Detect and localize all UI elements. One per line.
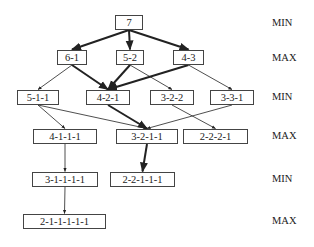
node-4-3: 4-3 xyxy=(173,50,204,65)
edge-5-1-1-to-3-2-1-1 xyxy=(38,105,147,129)
level-label-max: MAX xyxy=(272,52,297,64)
node-2-2-2-1: 2-2-2-1 xyxy=(183,129,248,144)
node-5-2: 5-2 xyxy=(116,50,144,65)
node-7: 7 xyxy=(115,15,143,30)
node-2-2-1-1-1: 2-2-1-1-1 xyxy=(110,172,175,187)
edge-7-to-5-2 xyxy=(129,30,130,50)
edge-3-1-1-1-1-to-2-1-1-1-1-1 xyxy=(65,187,66,214)
level-label-min: MIN xyxy=(272,91,292,103)
node-3-2-1-1: 3-2-1-1 xyxy=(116,129,178,144)
node-6-1: 6-1 xyxy=(57,50,87,65)
node-2-1-1-1-1-1: 2-1-1-1-1-1 xyxy=(23,214,106,229)
edge-7-to-4-3 xyxy=(129,30,189,50)
edge-5-1-1-to-4-1-1-1 xyxy=(38,105,65,129)
edge-4-3-to-3-3-1 xyxy=(189,65,233,90)
game-tree-diagram: 7 6-1 5-2 4-3 5-1-1 4-2-1 3-2-2 3-3-1 4-… xyxy=(0,0,314,247)
edge-4-2-1-to-3-2-1-1 xyxy=(108,105,147,129)
edge-3-2-2-to-2-2-2-1 xyxy=(172,105,216,129)
node-4-2-1: 4-2-1 xyxy=(86,90,130,105)
level-label-min: MIN xyxy=(272,173,292,185)
node-3-1-1-1-1: 3-1-1-1-1 xyxy=(32,172,98,187)
node-3-2-2: 3-2-2 xyxy=(150,90,194,105)
edge-6-1-to-4-2-1 xyxy=(72,65,108,90)
edge-3-3-1-to-3-2-1-1 xyxy=(147,105,232,129)
level-label-max: MAX xyxy=(272,215,297,227)
level-label-max: MAX xyxy=(272,130,297,142)
edge-7-to-6-1 xyxy=(72,30,129,50)
level-label-min: MIN xyxy=(272,17,292,29)
edges-layer xyxy=(0,0,314,247)
edge-3-2-1-1-to-2-2-1-1-1 xyxy=(143,144,148,172)
node-3-3-1: 3-3-1 xyxy=(210,90,254,105)
node-5-1-1: 5-1-1 xyxy=(17,90,59,105)
node-4-1-1-1: 4-1-1-1 xyxy=(33,129,97,144)
edge-6-1-to-5-1-1 xyxy=(38,65,72,90)
